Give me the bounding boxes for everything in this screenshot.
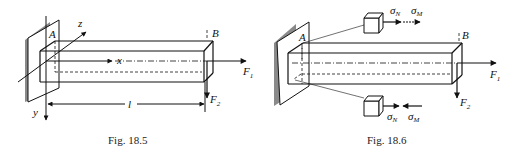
label-b: B: [462, 29, 469, 41]
diagram-canvas: A B z x y l F1 F2 Fig. 18.5: [0, 0, 519, 160]
label-length: l: [128, 98, 131, 110]
label-x: x: [116, 54, 122, 66]
label-a: A: [298, 31, 306, 43]
label-top-sigma-n: σN: [390, 4, 400, 18]
label-f2: F2: [459, 96, 471, 111]
stress-element-bottom: [364, 96, 383, 116]
label-y: y: [32, 106, 38, 118]
beam: [288, 43, 462, 84]
label-f1: F1: [489, 68, 500, 83]
label-z: z: [77, 17, 83, 29]
label-f2: F2: [209, 93, 221, 108]
label-f1: F1: [242, 65, 253, 80]
figure-18-5: A B z x y l F1 F2 Fig. 18.5: [18, 16, 253, 146]
label-a: A: [48, 28, 56, 40]
hidden-edges: [294, 33, 459, 84]
label-b: B: [212, 27, 219, 39]
stress-element-top: [364, 13, 383, 33]
figure-18-6: A B F1 F2 σN σM σN σM Fig. 18.6: [274, 4, 500, 146]
length-dimension: [48, 82, 205, 112]
label-top-sigma-m: σM: [411, 4, 423, 18]
label-bottom-sigma-m: σM: [408, 110, 420, 124]
label-bottom-sigma-n: σN: [387, 110, 397, 124]
caption-fig-18-5: Fig. 18.5: [108, 134, 148, 146]
caption-fig-18-6: Fig. 18.6: [367, 134, 407, 146]
